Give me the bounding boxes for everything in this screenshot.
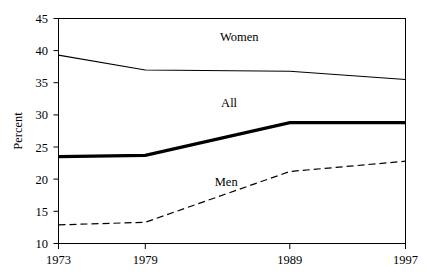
y-axis-labels: 45 40 35 30 25 20 15 10 [36,12,49,251]
y-tick-label-40: 40 [36,44,49,58]
x-tick-label-1989: 1989 [277,253,302,267]
series-label-women: Women [220,30,259,44]
y-tick-label-30: 30 [36,108,49,122]
series-label-men: Men [215,175,239,189]
y-axis-ticks [54,19,59,244]
series-line-all [59,123,406,157]
y-tick-label-25: 25 [36,141,49,155]
y-tick-label-35: 35 [36,76,49,90]
x-tick-label-1979: 1979 [133,253,158,267]
plot-border [59,19,406,244]
chart-figure: 45 40 35 30 25 20 15 10 Percent 1973 197… [0,0,427,279]
x-axis-labels: 1973 1979 1989 1997 [46,253,418,267]
x-tick-label-1973: 1973 [46,253,71,267]
line-chart: 45 40 35 30 25 20 15 10 Percent 1973 197… [0,0,427,279]
series-line-men [59,161,406,225]
x-tick-label-1997: 1997 [393,253,418,267]
y-tick-label-45: 45 [36,12,49,26]
y-tick-label-10: 10 [36,237,49,251]
series-label-all: All [221,96,238,110]
x-axis-ticks [59,244,406,250]
series-labels-group: Women All Men [215,30,260,189]
data-series-group [59,55,406,225]
y-tick-label-20: 20 [36,173,49,187]
series-line-women [59,55,406,79]
y-axis-title: Percent [11,112,25,150]
y-tick-label-15: 15 [36,205,49,219]
plot-frame [59,19,406,244]
